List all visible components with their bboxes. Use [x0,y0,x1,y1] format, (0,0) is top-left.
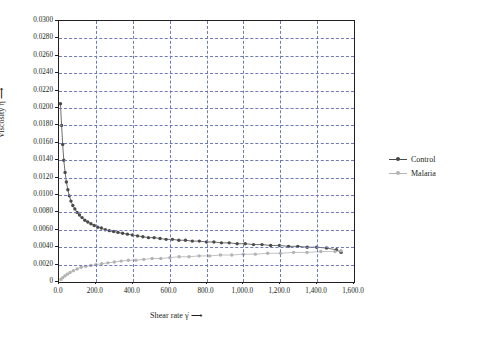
y-tick-label: 0.0040 [33,242,53,250]
y-tick-label: 0.0200 [33,103,53,111]
y-axis-title: Viscosity η ⟶ [0,88,6,138]
legend-label: Malaria [411,169,436,178]
chart-container: Viscosity η ⟶ Shear rate γ̇ ⟶ Pa.s 0.030… [0,0,480,352]
y-tick-label: 0 [49,277,53,285]
x-tick-label: 200.0 [77,287,113,295]
y-tick-label: 0.0280 [33,33,53,41]
legend-item-malaria[interactable]: Malaria [389,166,436,180]
x-tick-label: 0.0 [40,287,76,295]
y-tick-label: 0.0080 [33,207,53,215]
y-tick-label: 0.0060 [33,225,53,233]
y-tick-label: 0.0140 [33,155,53,163]
y-tick-label: 0.0260 [33,51,53,59]
gridline-vertical [317,21,318,282]
y-tick-label: 0.0120 [33,173,53,181]
y-tick-label: 0.0160 [33,138,53,146]
gridline-vertical [280,21,281,282]
y-tick-label: 0.0300 [33,16,53,24]
gridline-vertical [243,21,244,282]
x-tick-label: 400.0 [114,287,150,295]
x-axis-title: Shear rate γ̇ ⟶ [150,310,202,320]
x-tick-label: 1,400.0 [298,287,334,295]
x-tick-label: 800.0 [188,287,224,295]
y-tick-label: 0.0220 [33,86,53,94]
gridline-vertical [96,21,97,282]
x-tick-label: 1,200.0 [261,287,297,295]
x-tick-label: 600.0 [151,287,187,295]
gridline-vertical [207,21,208,282]
y-tick-label: 0.0020 [33,260,53,268]
x-tick-label: 1,000.0 [224,287,260,295]
gridline-vertical [170,21,171,282]
legend-label: Control [411,155,435,164]
y-tick-label: 0.0180 [33,120,53,128]
legend-marker-icon [389,155,407,164]
legend-marker-icon [389,169,407,178]
gridline-vertical [133,21,134,282]
legend-item-control[interactable]: Control [389,152,436,166]
chart-legend: ControlMalaria [389,152,436,180]
y-tick-label: 0.0240 [33,68,53,76]
plot-area [58,20,355,283]
x-tick-label: 1,600.0 [335,287,371,295]
y-tick-label: 0.0100 [33,190,53,198]
